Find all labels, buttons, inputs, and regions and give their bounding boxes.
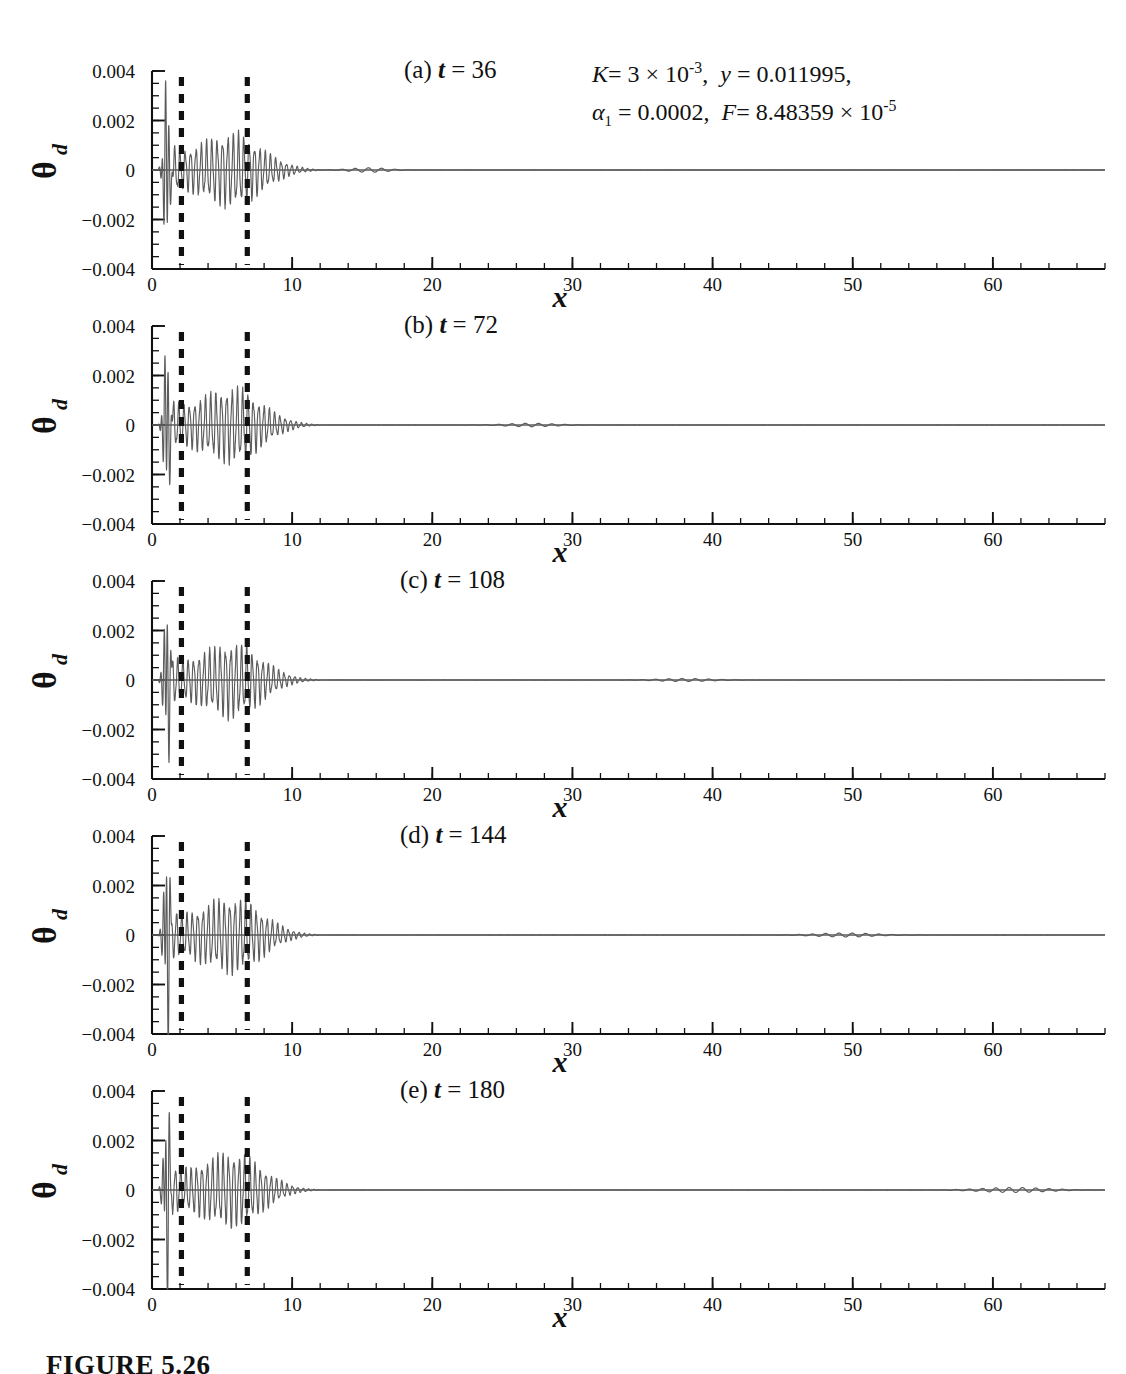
param-k-exponent: -3 [689, 59, 702, 76]
panel-time-value-e: = 180 [447, 1076, 505, 1103]
param-f-symbol: F [722, 99, 737, 125]
y-tick-label: −0.002 [82, 720, 135, 741]
param-alpha-value: = 0.0002, [618, 99, 710, 125]
waveform-trace-c [152, 625, 1105, 763]
y-tick-label: 0.002 [92, 111, 135, 132]
panel-title-c: (c) t = 108 [400, 566, 505, 594]
plot-panel-c: 0.0040.0020−0.002−0.0040102030405060xθd(… [0, 570, 1126, 825]
x-tick-label: 10 [283, 1294, 302, 1315]
x-tick-label: 20 [423, 529, 442, 550]
param-k-value: = 3 × 10 [608, 61, 689, 87]
param-f-exponent: -5 [883, 97, 896, 114]
panel-tag-b: (b) [404, 311, 433, 338]
x-tick-label: 10 [283, 529, 302, 550]
x-tick-label: 20 [423, 784, 442, 805]
plot-area-c: 0.0040.0020−0.002−0.0040102030405060xθd [0, 570, 1126, 825]
plot-panel-d: 0.0040.0020−0.002−0.0040102030405060xθd(… [0, 825, 1126, 1080]
y-tick-label: 0.004 [92, 826, 135, 847]
y-tick-label: −0.004 [82, 769, 136, 790]
y-tick-label: −0.002 [82, 975, 135, 996]
x-tick-label: 60 [983, 784, 1002, 805]
x-tick-label: 60 [983, 529, 1002, 550]
y-tick-label: −0.002 [82, 465, 135, 486]
y-tick-label: 0.002 [92, 366, 135, 387]
y-tick-label: 0.002 [92, 621, 135, 642]
waveform-trace-b [152, 356, 1105, 485]
panel-tag-a: (a) [404, 56, 432, 83]
plot-area-b: 0.0040.0020−0.002−0.0040102030405060xθd [0, 315, 1126, 570]
y-axis-label-subscript: d [47, 398, 72, 410]
panel-time-symbol-b: t [439, 311, 446, 338]
y-tick-label: 0.004 [92, 571, 135, 592]
y-axis-label: θd [26, 398, 72, 434]
figure-root: 0.0040.0020−0.002−0.0040102030405060xθd(… [0, 0, 1126, 1374]
y-tick-label: 0 [126, 670, 136, 691]
panel-time-symbol-d: t [435, 821, 442, 848]
y-axis-label-subscript: d [47, 653, 72, 665]
plot-area-e: 0.0040.0020−0.002−0.0040102030405060xθd [0, 1080, 1126, 1335]
panel-time-value-a: = 36 [451, 56, 496, 83]
panel-tag-d: (d) [400, 821, 429, 848]
x-tick-label: 10 [283, 274, 302, 295]
y-tick-label: 0 [126, 1180, 136, 1201]
panel-title-a: (a) t = 36 [404, 56, 497, 84]
x-tick-label: 40 [703, 274, 722, 295]
y-axis-label-symbol: θ [26, 926, 63, 944]
plot-panel-b: 0.0040.0020−0.002−0.0040102030405060xθd(… [0, 315, 1126, 570]
x-tick-label: 20 [423, 1294, 442, 1315]
y-axis-label-subscript: d [47, 143, 72, 155]
x-tick-label: 0 [147, 1039, 157, 1060]
x-tick-label: 10 [283, 1039, 302, 1060]
panel-time-value-c: = 108 [447, 566, 505, 593]
x-tick-label: 50 [843, 1294, 862, 1315]
y-tick-label: −0.002 [82, 210, 135, 231]
x-axis-label: x [552, 1045, 568, 1078]
waveform-trace-e [152, 1112, 1105, 1289]
x-tick-label: 0 [147, 529, 157, 550]
y-axis-label: θd [26, 908, 72, 944]
y-axis-label-symbol: θ [26, 161, 63, 179]
param-y-symbol: y [720, 61, 731, 87]
panel-title-d: (d) t = 144 [400, 821, 506, 849]
plot-area-a: 0.0040.0020−0.002−0.0040102030405060xθd [0, 60, 1126, 315]
y-axis-label-subscript: d [47, 1163, 72, 1175]
panel-title-e: (e) t = 180 [400, 1076, 505, 1104]
panel-time-value-d: = 144 [449, 821, 507, 848]
x-tick-label: 0 [147, 784, 157, 805]
y-tick-label: 0 [126, 925, 136, 946]
panel-tag-c: (c) [400, 566, 428, 593]
panel-time-value-b: = 72 [453, 311, 498, 338]
panel-time-symbol-c: t [434, 566, 441, 593]
x-tick-label: 50 [843, 274, 862, 295]
x-tick-label: 60 [983, 274, 1002, 295]
panel-title-b: (b) t = 72 [404, 311, 498, 339]
x-tick-label: 40 [703, 1294, 722, 1315]
panel-time-symbol-a: t [438, 56, 445, 83]
y-axis-label: θd [26, 1163, 72, 1199]
x-tick-label: 40 [703, 1039, 722, 1060]
x-tick-label: 20 [423, 274, 442, 295]
y-axis-label-symbol: θ [26, 416, 63, 434]
panel-time-symbol-e: t [434, 1076, 441, 1103]
plot-area-d: 0.0040.0020−0.002−0.0040102030405060xθd [0, 825, 1126, 1080]
y-tick-label: 0.004 [92, 61, 135, 82]
x-tick-label: 10 [283, 784, 302, 805]
y-tick-label: −0.004 [82, 514, 136, 535]
x-axis-label: x [552, 535, 568, 568]
y-tick-label: 0.004 [92, 1081, 135, 1102]
param-alpha-symbol: α [592, 99, 605, 125]
plot-panel-e: 0.0040.0020−0.002−0.0040102030405060xθd(… [0, 1080, 1126, 1335]
y-axis-label-subscript: d [47, 908, 72, 920]
y-tick-label: −0.004 [82, 1024, 136, 1045]
y-axis-label: θd [26, 653, 72, 689]
x-axis-label: x [552, 280, 568, 313]
y-tick-label: −0.004 [82, 1279, 136, 1300]
x-tick-label: 20 [423, 1039, 442, 1060]
x-tick-label: 60 [983, 1039, 1002, 1060]
y-tick-label: 0.002 [92, 1131, 135, 1152]
y-axis-label-symbol: θ [26, 1181, 63, 1199]
x-tick-label: 50 [843, 784, 862, 805]
y-tick-label: 0.002 [92, 876, 135, 897]
y-axis-label-symbol: θ [26, 671, 63, 689]
waveform-trace-d [152, 877, 1105, 1034]
